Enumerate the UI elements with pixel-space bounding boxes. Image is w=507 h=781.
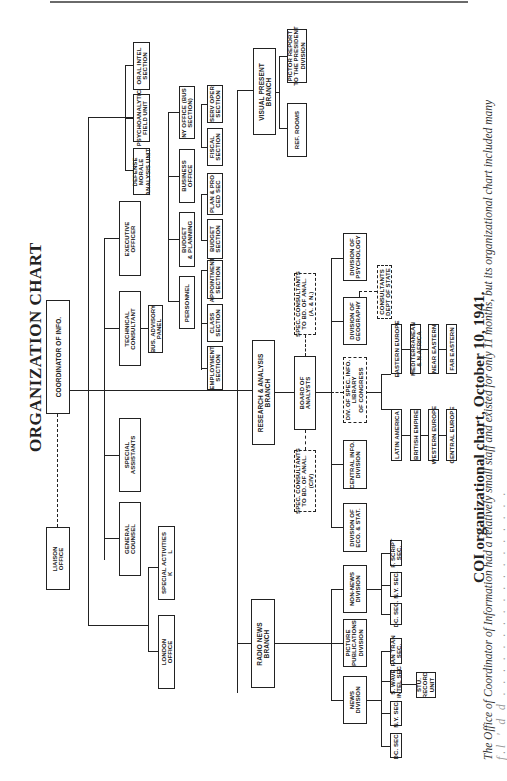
box-fan-trans-sec: FAN TRAN SEC. bbox=[390, 638, 402, 664]
chart-title: ORGANIZATION CHART bbox=[26, 242, 46, 452]
connector-line bbox=[331, 321, 343, 322]
box-label: ORAL INTEL SECTION bbox=[135, 48, 148, 85]
connector-line bbox=[88, 625, 148, 626]
box-visual-present-branch: VISUAL PRESENT BRANCH bbox=[253, 48, 276, 135]
connector-line bbox=[331, 589, 343, 590]
connector-line bbox=[367, 392, 381, 393]
box-british-empire: BRITISH EMPIRE bbox=[410, 409, 421, 461]
connector-line bbox=[70, 390, 260, 391]
box-label: DC. SEC. bbox=[393, 732, 399, 759]
connector-line bbox=[331, 589, 332, 700]
box-technical-consultant: TECHNICAL CONSULTANT bbox=[119, 291, 141, 366]
box-employment-section: EMPLOYMENT SECTION bbox=[207, 346, 223, 390]
box-label: GENERAL COUNSEL bbox=[124, 524, 137, 554]
box-label: NEWS DIVISION bbox=[349, 686, 362, 713]
dashed-connector-line bbox=[305, 430, 306, 450]
connector-line bbox=[201, 194, 202, 240]
dashed-connector-line bbox=[359, 291, 377, 292]
box-non-news-division: NON-NEWS DIVISION bbox=[343, 565, 367, 613]
box-label: LIAISON OFFICE bbox=[52, 546, 65, 571]
connector-line bbox=[279, 56, 287, 57]
connector-line bbox=[331, 258, 332, 528]
connector-line bbox=[381, 614, 390, 615]
connector-line bbox=[237, 643, 251, 644]
box-serv-oper-section: SERV OPER SECTION bbox=[207, 85, 223, 123]
box-label: FAR EASTERN bbox=[448, 327, 454, 370]
box-fiscal-section: FISCAL SECTION bbox=[207, 128, 223, 166]
box-consultants-dept-state: CONSULTANTS DEPT OF STATE bbox=[377, 265, 392, 319]
box-label: DIVISION OF GEOGRAPHY bbox=[349, 301, 362, 341]
box-mediterranean: MEDITERRANEAN & N AFRICA bbox=[410, 324, 421, 374]
dashed-connector-line bbox=[57, 414, 58, 527]
box-budget-section: BUDGET SECTION bbox=[207, 219, 223, 259]
box-label: BUDGET SECTION bbox=[209, 225, 222, 252]
box-label: SPECIAL ACTIVITIES K L bbox=[160, 532, 173, 594]
box-board-of-analysts: BOARD OF ANALYSTS bbox=[294, 356, 316, 430]
connector-line bbox=[331, 527, 343, 528]
box-radio-news-branch: RADIO NEWS BRANCH bbox=[251, 599, 275, 688]
connector-line bbox=[104, 238, 119, 239]
connector-line bbox=[125, 118, 133, 119]
connector-line bbox=[275, 643, 331, 644]
box-label: CLASS SECTION bbox=[209, 309, 222, 336]
box-news-ny-sec: N.Y. SEC. bbox=[390, 701, 402, 726]
connector-line bbox=[148, 651, 158, 652]
connector-line bbox=[331, 258, 343, 259]
box-label: BOARD OF ANALYSTS bbox=[299, 377, 312, 410]
box-label: N.Y. SEC. bbox=[393, 571, 399, 599]
box-ref-rooms: REF. ROOMS bbox=[287, 103, 307, 157]
box-swave-intel-sec: S. WAVE INTEL SEC bbox=[390, 670, 402, 693]
box-division-eco-stat: DIVISION OF ECO. & STAT. bbox=[343, 503, 367, 552]
box-label: CENTRAL INFO. DIVISION bbox=[349, 441, 362, 489]
box-news-division: NEWS DIVISION bbox=[343, 676, 367, 724]
box-label: BUSINESS OFFICE bbox=[181, 160, 194, 191]
connector-line bbox=[237, 90, 238, 693]
box-label: CONSULTANTS DEPT OF STATE bbox=[378, 268, 391, 316]
box-central-europe: CENTRAL EUROPE bbox=[446, 409, 457, 461]
connector-line bbox=[141, 328, 148, 329]
connector-line bbox=[381, 409, 391, 410]
box-label: DIVISION OF ECO. & STAT. bbox=[349, 508, 362, 547]
box-bus-advisory-panel: BUS. ADVISORY PANEL bbox=[148, 305, 163, 353]
box-near-eastern: NEAR EASTERN bbox=[428, 324, 439, 374]
box-label: VISUAL PRESENT BRANCH bbox=[258, 63, 272, 121]
connector-line bbox=[381, 553, 382, 614]
box-research-analysis-branch: RESEARCH & ANALYSIS BRANCH bbox=[252, 340, 275, 445]
box-label: BRITISH EMPIRE bbox=[412, 410, 418, 460]
connector-line bbox=[168, 176, 179, 177]
connector-line bbox=[367, 700, 381, 701]
connector-line bbox=[168, 112, 169, 301]
box-division-geography: DIVISION OF GEOGRAPHY bbox=[343, 297, 367, 345]
box-label: SPECIAL ASSISTANTS bbox=[124, 436, 137, 475]
dashed-connector-line bbox=[331, 392, 343, 393]
box-label: NY OFFICE (BUS SECTION) bbox=[181, 88, 194, 138]
box-f-script-sec: F. SCRIPT SEC. bbox=[390, 540, 402, 566]
box-label: RADIO NEWS BRANCH bbox=[256, 622, 270, 665]
box-label: BUDGET & PLANNING bbox=[181, 220, 194, 258]
box-appointment-section: APPOINTMENT SECTION bbox=[207, 260, 223, 299]
box-label: SERV OPER SECTION bbox=[209, 86, 222, 122]
caption-body: The Office of Coordinator of Information… bbox=[482, 100, 494, 760]
connector-line bbox=[402, 684, 416, 685]
connector-line bbox=[381, 651, 382, 746]
connector-line bbox=[125, 65, 133, 66]
box-label: APPOINTMENT SECTION bbox=[209, 257, 222, 302]
box-executive-officer: EXECUTIVE OFFICER bbox=[119, 201, 141, 276]
connector-line bbox=[316, 392, 331, 393]
box-label: FISCAL SECTION bbox=[209, 133, 222, 160]
box-label: LONDON OFFICE bbox=[160, 639, 173, 666]
box-spec-consultants-an: SPEC. CONSULTANTS TO BD. OF ANAL. (A. & … bbox=[294, 273, 316, 335]
dashed-connector-line bbox=[305, 335, 306, 356]
box-eastern-europe: EASTERN EUROPE bbox=[391, 324, 402, 374]
box-central-info-division: CENTRAL INFO. DIVISION bbox=[343, 440, 367, 489]
connector-line bbox=[88, 117, 89, 625]
box-label: REF. ROOMS bbox=[294, 111, 300, 149]
box-label: PICTURE PUBLICATIONS DIVISION bbox=[345, 620, 364, 666]
box-division-psychology: DIVISION OF PSYCHOLOGY bbox=[343, 233, 367, 281]
box-special-activities: SPECIAL ACTIVITIES K L bbox=[158, 526, 175, 600]
box-label: PICTOR REPORT TO THE PRESIDENT DIVISION bbox=[287, 26, 306, 86]
connector-line bbox=[331, 643, 343, 644]
box-label: DIVISION OF PSYCHOLOGY bbox=[349, 235, 362, 278]
box-nn-dc-sec: DC. SEC. bbox=[390, 603, 402, 625]
box-label: PERSONNEL bbox=[184, 283, 190, 321]
